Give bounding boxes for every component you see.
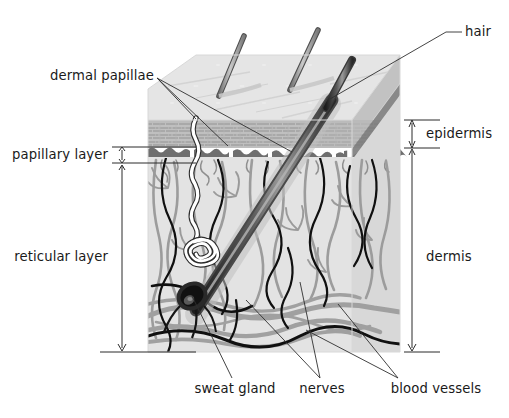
label-dermis: dermis [426,250,472,263]
label-epidermis: epidermis [426,127,492,140]
label-nerves: nerves [299,382,344,395]
label-papillary-layer: papillary layer [12,148,108,161]
label-blood-vessels: blood vessels [391,382,481,395]
label-reticular-layer: reticular layer [14,250,108,263]
skin-diagram-artwork [0,0,509,418]
skin-block [148,30,407,352]
label-dermal-papillae: dermal papillae [50,69,154,82]
skin-cross-section-figure: dermal papillae hair papillary layer ret… [0,0,509,418]
label-sweat-gland: sweat gland [194,382,275,395]
label-hair: hair [465,25,491,38]
right-measure-brackets [404,120,440,352]
